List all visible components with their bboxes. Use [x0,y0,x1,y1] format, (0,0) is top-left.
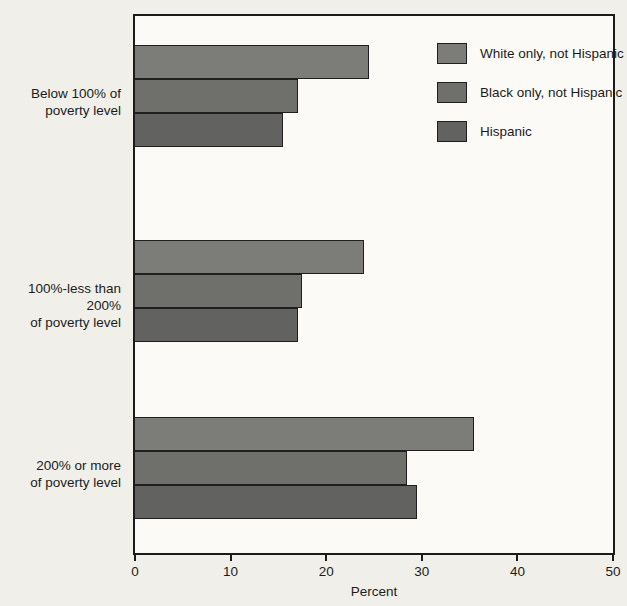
legend-item: Hispanic [437,121,624,142]
bar-series-1-below-100-percent-of-poverty-level [135,79,298,113]
bar-group-200-percent-or-more-of-poverty-level [135,417,613,519]
x-axis-tick [325,555,327,561]
x-axis-tick [134,555,136,561]
bar-series-2-100-to-less-than-200-percent-of-poverty-level [135,308,298,342]
legend-item: Black only, not Hispanic [437,82,624,103]
category-label-line: of poverty level [0,314,121,331]
legend-item: White only, not Hispanic [437,43,624,64]
bar-series-0-200-percent-or-more-of-poverty-level [135,417,474,451]
category-label-100-to-less-than-200-percent-of-poverty-level: 100%-less than 200%of poverty level [0,280,121,331]
bar-group-100-to-less-than-200-percent-of-poverty-level [135,240,613,342]
legend-swatch-icon [437,121,467,142]
legend-label: Hispanic [480,124,532,139]
bar-series-2-below-100-percent-of-poverty-level [135,113,283,147]
bar-series-1-100-to-less-than-200-percent-of-poverty-level [135,274,302,308]
legend-swatch-icon [437,82,467,103]
x-axis-tick-label: 40 [510,564,525,579]
category-label-200-percent-or-more-of-poverty-level: 200% or moreof poverty level [0,457,121,491]
category-label-line: 100%-less than 200% [0,280,121,314]
category-label-below-100-percent-of-poverty-level: Below 100% ofpoverty level [0,85,121,119]
x-axis-tick-label: 50 [605,564,620,579]
x-axis-tick-label: 0 [131,564,139,579]
category-label-line: Below 100% of [0,85,121,102]
legend: White only, not HispanicBlack only, not … [437,43,624,160]
x-axis-tick-label: 30 [414,564,429,579]
legend-label: White only, not Hispanic [480,46,624,61]
bar-series-1-200-percent-or-more-of-poverty-level [135,451,407,485]
bar-series-2-200-percent-or-more-of-poverty-level [135,485,417,519]
legend-label: Black only, not Hispanic [480,85,622,100]
x-axis-tick [516,555,518,561]
page: White only, not HispanicBlack only, not … [0,0,627,606]
bar-series-0-100-to-less-than-200-percent-of-poverty-level [135,240,364,274]
category-label-line: 200% or more [0,457,121,474]
x-axis-tick-label: 10 [223,564,238,579]
legend-swatch-icon [437,43,467,64]
category-label-line: of poverty level [0,474,121,491]
category-label-line: poverty level [0,102,121,119]
x-axis-title: Percent [351,584,398,599]
x-axis-tick [421,555,423,561]
x-axis-tick-label: 20 [319,564,334,579]
x-axis-tick [612,555,614,561]
x-axis-tick [230,555,232,561]
plot-area: White only, not HispanicBlack only, not … [133,14,615,555]
bar-series-0-below-100-percent-of-poverty-level [135,45,369,79]
